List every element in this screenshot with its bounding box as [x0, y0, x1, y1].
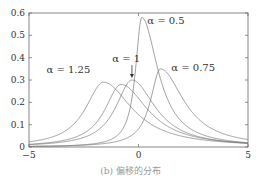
y-tick-label: 0.5 — [11, 30, 26, 40]
annotation-label: α = 1.25 — [47, 64, 91, 75]
annotation-label: α = 1 — [112, 53, 140, 64]
series-line — [29, 18, 248, 147]
x-tick-label: 0 — [136, 150, 142, 160]
axes: 00.10.20.30.40.50.6−505 — [11, 8, 251, 160]
y-tick-label: 0.4 — [11, 53, 26, 63]
curves — [29, 18, 248, 147]
y-tick-label: 0.1 — [11, 120, 25, 130]
plot-frame — [29, 13, 248, 147]
series-line — [29, 82, 248, 143]
annotation-label: α = 0.5 — [147, 15, 184, 26]
x-tick-label: −5 — [22, 150, 36, 160]
y-tick-label: 0.3 — [11, 75, 26, 85]
chart-caption: (b) 偏移的分布 — [0, 164, 261, 177]
annotations: α = 0.5α = 0.75α = 1α = 1.25 — [47, 15, 216, 78]
y-tick-label: 0.2 — [11, 97, 25, 107]
x-tick-label: 5 — [245, 150, 251, 160]
line-chart: 00.10.20.30.40.50.6−505 α = 0.5α = 0.75α… — [0, 0, 261, 179]
y-tick-label: 0.6 — [11, 8, 26, 18]
series-line — [29, 80, 248, 145]
annotation-label: α = 0.75 — [171, 62, 215, 73]
series-line — [29, 69, 248, 147]
arrow-head-icon — [130, 74, 134, 78]
